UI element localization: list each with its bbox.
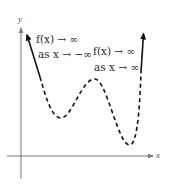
left-annotation-line1: f(x) → ∞ (36, 34, 78, 45)
end-behavior-graph: y x f(x) → ∞ as x → −∞ f(x) → ∞ as x → ∞ (0, 0, 170, 189)
right-annotation-line2: as x → ∞ (94, 62, 139, 73)
left-annotation-line2: as x → −∞ (38, 49, 92, 60)
graph-canvas (0, 0, 170, 189)
y-axis-label: y (18, 15, 22, 24)
x-axis-label: x (156, 151, 160, 160)
right-annotation-line1: f(x) → ∞ (93, 46, 135, 57)
right-end-arrow (141, 34, 144, 72)
dashed-curve (40, 72, 141, 145)
